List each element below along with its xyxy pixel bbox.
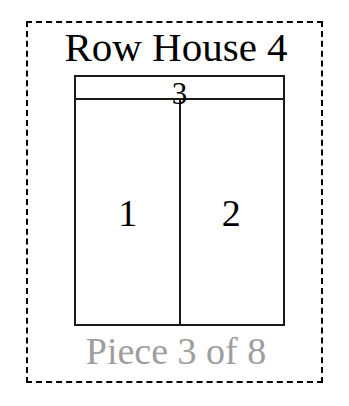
room-label-2: 2 [180,194,284,232]
room-label-1: 1 [76,194,180,232]
page-title: Row House 4 [30,23,322,71]
floorplan-diagram: 3 1 2 [74,75,285,326]
room-label-3: 3 [76,78,283,109]
piece-counter-label: Piece 3 of 8 [30,328,322,374]
